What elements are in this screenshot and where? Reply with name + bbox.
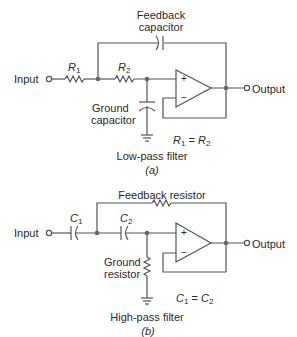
output-terminal-icon: [244, 240, 249, 245]
feedback-capacitor-label-line1: Feedback: [137, 9, 185, 21]
ground-resistor-label-line2: resistor: [104, 268, 140, 280]
eq-right: R: [198, 134, 206, 146]
c2-subscript: 2: [128, 217, 132, 226]
input-label: Input: [14, 73, 38, 85]
eq-sign: =: [188, 292, 201, 304]
opamp-plus-label: +: [181, 73, 187, 85]
input-terminal-icon: [46, 76, 51, 81]
low-pass-title: Low-pass filter: [117, 150, 188, 162]
output-label: Output: [252, 83, 285, 95]
eq-left: C: [176, 292, 184, 304]
ground-icon: [141, 298, 153, 304]
r2-label: R2: [118, 61, 130, 77]
eq-right-sub: 2: [209, 297, 213, 306]
opamp-plus-label: +: [181, 227, 187, 239]
c1-label: C1: [70, 212, 82, 228]
eq-right: C: [201, 292, 209, 304]
feedback-capacitor-label-line2: capacitor: [139, 21, 184, 33]
c2-symbol: C: [120, 212, 128, 224]
r1-label: R1: [68, 61, 80, 77]
output-terminal-icon: [244, 85, 249, 90]
caption-b: (b): [141, 325, 154, 337]
r2-subscript: 2: [126, 66, 130, 75]
r2-symbol: R: [118, 61, 126, 73]
input-label: Input: [14, 227, 38, 239]
r1-subscript: 1: [76, 66, 80, 75]
c1-symbol: C: [70, 212, 78, 224]
feedback-resistor-label: Feedback resistor: [118, 189, 205, 201]
ground-icon: [141, 135, 153, 141]
eq-left: R: [173, 134, 181, 146]
opamp-minus-label: −: [181, 247, 187, 259]
c2-label: C2: [120, 212, 132, 228]
caption-a: (a): [145, 164, 158, 176]
eq-sign: =: [185, 134, 198, 146]
ground-capacitor-label-line2: capacitor: [91, 114, 136, 126]
input-terminal-icon: [46, 230, 51, 235]
equation-r1-r2: R1 = R2: [173, 134, 210, 150]
high-pass-title: High-pass filter: [110, 311, 183, 323]
ground-capacitor-label-line1: Ground: [92, 102, 129, 114]
opamp-minus-label: −: [181, 92, 187, 104]
eq-right-sub: 2: [206, 139, 210, 148]
r1-symbol: R: [68, 61, 76, 73]
low-pass-circuit: [46, 36, 249, 141]
c1-subscript: 1: [78, 217, 82, 226]
output-label: Output: [252, 238, 285, 250]
ground-resistor-label-line1: Ground: [104, 256, 141, 268]
equation-c1-c2: C1 = C2: [176, 292, 213, 308]
ground-resistor-icon: [144, 257, 150, 276]
